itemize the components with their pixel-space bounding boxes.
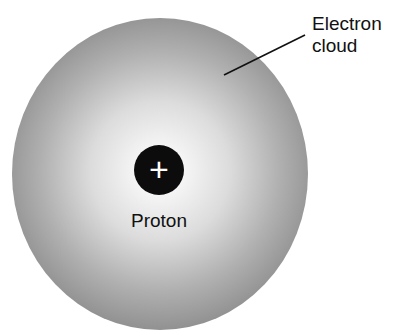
plus-icon: +	[149, 150, 169, 188]
electron-cloud-label-line1: Electron	[312, 13, 382, 35]
proton-label: Proton	[131, 210, 187, 232]
proton-nucleus: +	[134, 145, 184, 195]
electron-cloud-label: Electron cloud	[312, 13, 382, 57]
electron-cloud-label-line2: cloud	[312, 35, 382, 57]
